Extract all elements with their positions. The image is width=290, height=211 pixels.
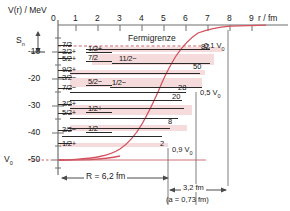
level-line <box>70 118 178 119</box>
magic-number-8: 8 <box>168 118 172 126</box>
diffuseness-label: (a = 0,73 fm) <box>166 196 209 204</box>
level-line <box>86 85 112 86</box>
figure-vectors <box>0 0 290 211</box>
y-tick-minus10: -10 <box>28 47 40 56</box>
x-tick-9: 9 <box>249 14 254 23</box>
marker-subscript: 0 <box>222 46 225 52</box>
potential-marker-0-9-v0: 0,9 V0 <box>172 146 193 156</box>
marker-label: 0,9 V <box>172 145 190 154</box>
magic-number-50: 50 <box>193 63 201 71</box>
y-tick-minus30: -30 <box>28 101 40 110</box>
level-line <box>86 132 112 133</box>
v0-subscript: 0 <box>10 160 13 166</box>
y-axis-label: V(r) / MeV <box>8 6 47 15</box>
marker-subscript: 0 <box>190 150 193 156</box>
level-label-c1-9: 1/2+ <box>62 140 76 148</box>
x-tick-1: 1 <box>73 14 78 23</box>
y-tick-minus40: -40 <box>28 128 40 137</box>
level-line <box>70 92 186 93</box>
x-tick-0: 0 <box>51 14 56 23</box>
level-label-c1-4: 3/2− <box>62 74 76 82</box>
marker-subscript: 0 <box>218 93 221 99</box>
level-line <box>70 100 182 101</box>
surface-thickness-label: 3,2 fm <box>181 184 206 192</box>
x-tick-2: 2 <box>95 14 100 23</box>
magic-number-2: 2 <box>160 140 164 148</box>
fermi-limit-label: Fermigrenze <box>128 34 176 43</box>
level-line <box>68 128 170 129</box>
level-label-c3-1: 1/2− <box>112 79 126 87</box>
marker-label: 0,1 V <box>204 41 222 50</box>
y-tick-minus20: -20 <box>28 74 40 83</box>
radius-label: R = 6,2 fm <box>84 172 127 181</box>
level-label-c1-6: 3/2+ <box>62 100 76 108</box>
marker-label: 0,5 V <box>200 88 218 97</box>
level-line <box>86 52 112 53</box>
level-line <box>70 108 184 109</box>
level-line <box>70 73 200 74</box>
potential-marker-0-5-v0: 0,5 V0 <box>200 89 221 99</box>
magic-number-20: 20 <box>172 93 180 101</box>
level-line <box>110 87 202 88</box>
x-tick-8: 8 <box>227 14 232 23</box>
x-tick-3: 3 <box>117 14 122 23</box>
potential-depth-label: V0 <box>4 155 13 166</box>
separation-energy-label: Sn <box>16 36 25 47</box>
x-tick-6: 6 <box>183 14 188 23</box>
x-tick-4: 4 <box>139 14 144 23</box>
sn-subscript: n <box>22 41 25 47</box>
x-tick-7: 7 <box>205 14 210 23</box>
level-label-c1-5: 7/2− <box>62 84 76 92</box>
level-label-c1-2: 5/2+ <box>62 55 76 63</box>
level-line <box>86 112 112 113</box>
level-label-c3-0: 11/2− <box>119 55 136 63</box>
magic-number-28: 28 <box>178 84 186 92</box>
x-axis-label: r / fm <box>258 14 277 23</box>
x-tick-5: 5 <box>161 14 166 23</box>
level-line <box>62 136 162 137</box>
y-tick-minus50: -50 <box>28 155 40 164</box>
level-line <box>86 49 210 50</box>
potential-marker-0-1-v0: 0,1 V0 <box>204 42 225 52</box>
level-line <box>86 61 112 62</box>
level-label-c1-7: 5/2+ <box>62 109 76 117</box>
figure-canvas: V(r) / MeV r / fm 0 1 2 3 4 5 6 7 8 9 -1… <box>0 0 290 211</box>
